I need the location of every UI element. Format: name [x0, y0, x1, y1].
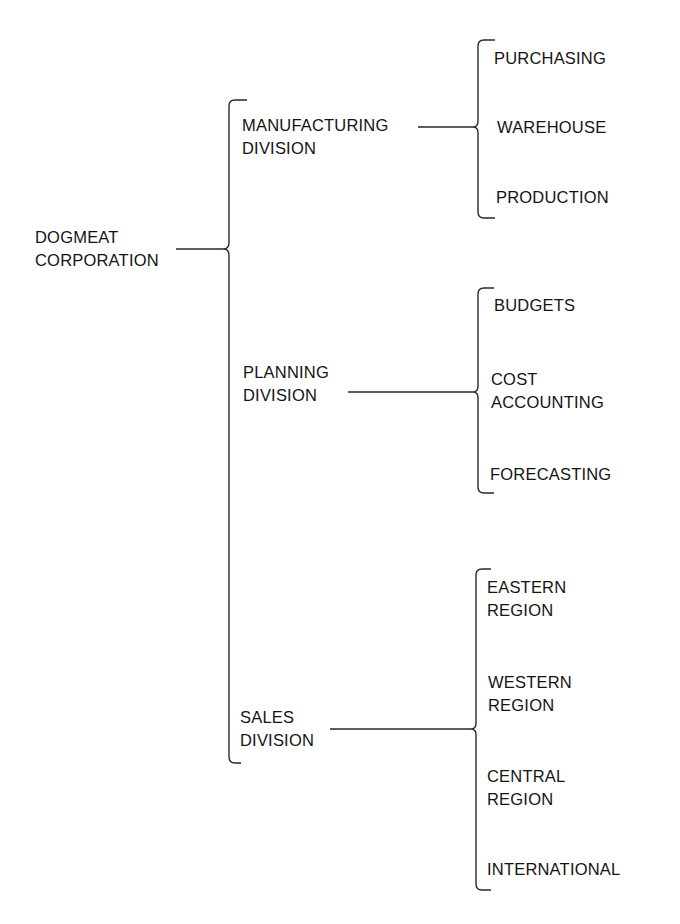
division-label-line-2: DIVISION	[243, 384, 329, 407]
division-label-line-1: MANUFACTURING	[242, 114, 389, 137]
division-label-line-1: PLANNING	[243, 361, 329, 384]
department-purchasing: PURCHASING	[494, 47, 606, 70]
department-label-line-2: REGION	[488, 694, 572, 717]
division-label-line-2: DIVISION	[242, 137, 389, 160]
division-manufacturing: MANUFACTURING DIVISION	[242, 114, 389, 160]
department-central-region: CENTRAL REGION	[487, 765, 565, 811]
division-planning: PLANNING DIVISION	[243, 361, 329, 407]
department-label-line-2: REGION	[487, 599, 566, 622]
department-label-line-1: EASTERN	[487, 576, 566, 599]
department-label: BUDGETS	[494, 294, 575, 317]
department-production: PRODUCTION	[496, 186, 609, 209]
root-line-2: CORPORATION	[35, 249, 159, 272]
org-chart-diagram: DOGMEAT CORPORATION MANUFACTURING DIVISI…	[0, 0, 680, 924]
manufacturing-bracket	[473, 40, 495, 218]
department-warehouse: WAREHOUSE	[497, 116, 606, 139]
department-label: INTERNATIONAL	[487, 858, 620, 881]
department-international: INTERNATIONAL	[487, 858, 620, 881]
department-label-line-1: COST	[491, 368, 604, 391]
department-label-line-2: ACCOUNTING	[491, 391, 604, 414]
root-node-dogmeat-corporation: DOGMEAT CORPORATION	[35, 226, 159, 272]
department-label: FORECASTING	[490, 463, 611, 486]
division-sales: SALES DIVISION	[240, 706, 314, 752]
division-label-line-1: SALES	[240, 706, 314, 729]
root-line-1: DOGMEAT	[35, 226, 159, 249]
department-budgets: BUDGETS	[494, 294, 575, 317]
main-bracket	[223, 100, 247, 763]
department-label: PRODUCTION	[496, 186, 609, 209]
department-forecasting: FORECASTING	[490, 463, 611, 486]
department-label-line-2: REGION	[487, 788, 565, 811]
division-label-line-2: DIVISION	[240, 729, 314, 752]
department-label-line-1: CENTRAL	[487, 765, 565, 788]
department-western-region: WESTERN REGION	[488, 671, 572, 717]
department-label: WAREHOUSE	[497, 116, 606, 139]
department-label-line-1: WESTERN	[488, 671, 572, 694]
department-label: PURCHASING	[494, 47, 606, 70]
department-cost-accounting: COST ACCOUNTING	[491, 368, 604, 414]
department-eastern-region: EASTERN REGION	[487, 576, 566, 622]
